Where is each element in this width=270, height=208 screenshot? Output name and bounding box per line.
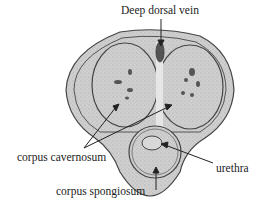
- cross-section-diagram: [0, 0, 270, 208]
- corpus-cavernosum-left: [92, 43, 158, 127]
- urethra: [142, 136, 162, 150]
- label-deep-dorsal-vein: Deep dorsal vein: [121, 5, 199, 17]
- label-urethra: urethra: [216, 163, 249, 175]
- corpus-cavernosum-right: [157, 45, 223, 129]
- label-corpus-spongiosum: corpus spongiosum: [56, 186, 145, 198]
- label-corpus-cavernosum: corpus cavernosum: [17, 152, 106, 164]
